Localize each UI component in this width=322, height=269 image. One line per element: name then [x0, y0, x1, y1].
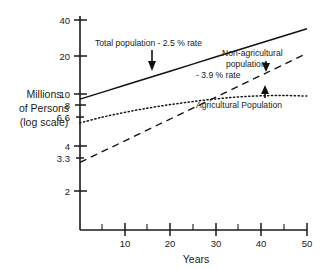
annotation-agricultural-population: Agricultural Population [196, 85, 282, 110]
annotation-total-population-arrow-head-down-icon [148, 61, 156, 71]
annotation-agricultural-population-label: Agricultural Population [196, 100, 282, 110]
y-axis-title-line-1: Millions [26, 88, 61, 100]
annotation-non-agricultural: Non-agricultural population - 3.9 % rate [196, 48, 283, 80]
annotation-non-agricultural-line-1: Non-agricultural [222, 48, 283, 58]
x-tick-label-20: 20 [165, 238, 176, 249]
x-tick-labels: 10 20 30 40 50 [120, 238, 313, 249]
x-tick-label-30: 30 [211, 238, 222, 249]
y-tick-label-40: 40 [59, 15, 70, 26]
annotation-non-agricultural-line-2: population [226, 59, 266, 69]
y-tick-label-3-3: 3.3 [57, 153, 70, 164]
x-tick-label-10: 10 [120, 238, 131, 249]
y-tick-label-20: 20 [59, 51, 70, 62]
annotation-total-population-label: Total population - 2.5 % rate [95, 38, 202, 48]
annotation-non-agricultural-line-3: - 3.9 % rate [196, 70, 241, 80]
x-tick-label-40: 40 [256, 238, 267, 249]
y-tick-label-2: 2 [65, 186, 70, 197]
population-growth-chart: 40 20 10 8 6.6 4 3.3 2 Millions of Perso… [0, 0, 322, 269]
y-axis-title-line-3: (log scale) [20, 116, 68, 128]
x-tick-label-50: 50 [302, 238, 313, 249]
x-axis-title: Years [183, 253, 209, 265]
y-tick-label-4: 4 [65, 141, 70, 152]
annotation-agricultural-arrow-head-up-icon [261, 85, 269, 94]
y-axis-title-line-2: of Persons [19, 102, 69, 114]
chart-canvas: 40 20 10 8 6.6 4 3.3 2 Millions of Perso… [0, 0, 322, 269]
